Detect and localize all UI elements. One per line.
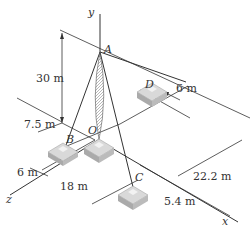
point-o-label: O [88, 124, 97, 137]
height-dim-label: 30 m [36, 72, 64, 85]
point-c-label: C [135, 171, 144, 184]
arrow-up-icon [60, 33, 64, 39]
c-x-dim-label: 18 m [60, 180, 88, 193]
footing-o [84, 139, 114, 163]
d-x-dim-label: 22.2 m [193, 170, 232, 183]
z-axis-label: z [5, 193, 12, 206]
footing-b [48, 143, 78, 166]
d-z-dim-label: 6 m [176, 82, 197, 95]
b-z-dim-label: 6 m [17, 166, 38, 179]
arrow-down-icon [60, 117, 64, 123]
b-offset-dim-label: 7.5 m [24, 118, 56, 131]
x-axis-label: x [222, 215, 229, 228]
point-a-label: A [103, 43, 112, 56]
footing-c [118, 186, 148, 210]
point-d-label: D [144, 78, 154, 91]
cable-ad [100, 52, 186, 82]
tower-diagram: y A D O B C z x 30 m 7.5 m 6 m 18 m 5.4 … [0, 0, 251, 233]
c-z-dim-label: 5.4 m [164, 195, 196, 208]
y-axis-label: y [87, 6, 95, 19]
point-b-label: B [65, 133, 74, 146]
